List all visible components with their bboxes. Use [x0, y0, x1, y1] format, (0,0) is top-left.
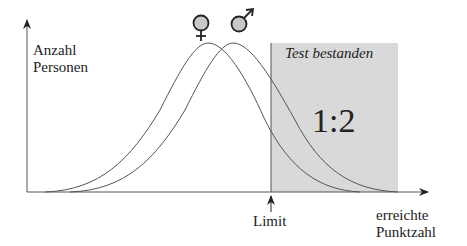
y-axis-label-line1: Anzahl [33, 42, 76, 59]
x-axis-label-line1: erreichte [376, 207, 428, 224]
female-symbol-icon [194, 16, 209, 42]
male-symbol-icon [232, 9, 254, 32]
region-label: Test bestanden [285, 45, 373, 62]
y-axis-label-line2: Personen [33, 59, 88, 76]
limit-label: Limit [253, 213, 286, 230]
x-axis-label-line2: Punktzahl [376, 224, 436, 241]
ratio-label: 1:2 [312, 104, 355, 138]
